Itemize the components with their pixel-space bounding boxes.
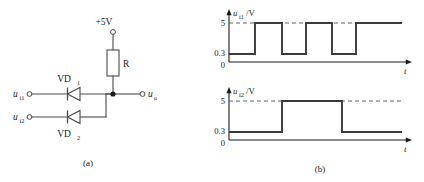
- ui2-x-axis-arrow: [406, 137, 412, 142]
- ui2-y-axis-title-main: u: [233, 86, 238, 96]
- diode-vd2-label-main: VD: [57, 129, 71, 139]
- diode-vd1-symbol: [68, 88, 81, 101]
- diode-vd1-label-main: VD: [57, 74, 71, 84]
- resistor-body: [107, 50, 119, 76]
- ui1-y-axis-title-unit: /V: [246, 8, 255, 18]
- ui2-y-axis-arrow: [226, 87, 231, 93]
- input1-label-main: u: [13, 89, 18, 99]
- resistor-label: R: [123, 59, 130, 69]
- ui1-y-axis-title-subscript: i1: [239, 13, 244, 20]
- diode-vd2-label-subscript: 2: [77, 134, 80, 141]
- output-node-dot: [110, 91, 115, 96]
- ui2-ytick-0-3: 0.3: [214, 126, 225, 136]
- waveform-panel: 5 0.3 0 u i1 /V t 5: [212, 0, 424, 182]
- ui2-x-axis-title: t: [404, 144, 407, 154]
- chart-waveform-ui1: 5 0.3 0 u i1 /V t: [214, 8, 412, 76]
- ui1-y-axis-title-main: u: [233, 8, 238, 18]
- ui1-waveform-trace: [229, 23, 402, 54]
- panel-a-caption: (a): [83, 158, 93, 168]
- ui1-ytick-5: 5: [221, 18, 225, 28]
- ui1-x-axis-arrow: [406, 59, 412, 64]
- supply-terminal: [111, 30, 116, 35]
- ui1-ytick-0-3: 0.3: [214, 48, 225, 58]
- input2-label-main: u: [13, 112, 18, 122]
- ui2-y-axis-title: u i2 /V: [233, 86, 255, 98]
- input1-label-subscript: i1: [20, 94, 25, 101]
- input1-terminal: [27, 92, 32, 97]
- chart-waveform-ui2: 5 0.3 0 u i2 /V t: [214, 86, 412, 154]
- figure-root: +5V R u i1 u i2 u o VD 1 VD 2 (a): [0, 0, 424, 182]
- output-label-subscript: o: [154, 94, 157, 101]
- input2-terminal: [27, 115, 32, 120]
- output-label: u o: [148, 89, 157, 101]
- output-label-main: u: [148, 89, 153, 99]
- circuit-schematic-panel: +5V R u i1 u i2 u o VD 1 VD 2 (a): [0, 0, 212, 182]
- diode-vd2-label: VD 2: [57, 129, 80, 141]
- input1-label: u i1: [13, 89, 24, 101]
- ui1-y-axis-arrow: [226, 9, 231, 15]
- diode-vd1-label: VD 1: [57, 74, 80, 86]
- panel-b-caption: (b): [315, 164, 326, 174]
- input2-label: u i2: [13, 112, 24, 124]
- ui1-y-axis-title: u i1 /V: [233, 8, 255, 20]
- ui2-waveform-trace: [229, 101, 402, 132]
- ui2-ytick-5: 5: [221, 96, 225, 106]
- supply-voltage-label: +5V: [96, 17, 113, 27]
- ui1-ytick-origin: 0: [221, 60, 225, 70]
- ui2-y-axis-title-subscript: i2: [239, 91, 244, 98]
- ui2-y-axis-title-unit: /V: [246, 86, 255, 96]
- input2-label-subscript: i2: [20, 117, 25, 124]
- ui1-x-axis-title: t: [404, 66, 407, 76]
- output-terminal: [140, 92, 145, 97]
- diode-vd2-symbol: [68, 111, 81, 124]
- ui2-ytick-origin: 0: [221, 138, 225, 148]
- diode-vd1-label-subscript: 1: [77, 79, 80, 86]
